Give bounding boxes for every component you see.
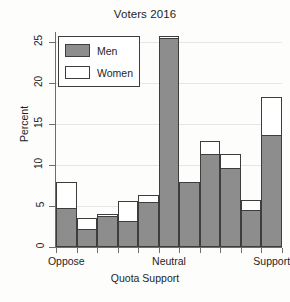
x-tick-mark <box>241 248 242 253</box>
x-tick-mark <box>220 248 221 253</box>
legend-swatch-men <box>65 44 90 57</box>
y-tick-label: 20 <box>0 76 44 87</box>
bar-women <box>261 97 282 247</box>
x-tick-mark <box>97 248 98 253</box>
y-tick-mark <box>49 83 55 84</box>
bar-men <box>118 221 139 247</box>
bar-men <box>56 208 77 247</box>
bar-men <box>159 38 180 247</box>
y-tick-label: 25 <box>0 35 44 46</box>
bar-men <box>261 135 282 247</box>
y-tick-mark <box>49 124 55 125</box>
x-axis-title: Quota Support <box>0 272 290 284</box>
legend-entry-men: Men <box>65 43 117 58</box>
x-tick-mark <box>118 248 119 253</box>
x-tick-mark <box>200 248 201 253</box>
y-tick-mark <box>49 206 55 207</box>
bar-women <box>220 154 241 247</box>
bar-women <box>159 36 180 247</box>
x-axis-line <box>55 247 282 248</box>
bar-men <box>77 229 98 247</box>
x-tick-mark <box>282 248 283 253</box>
y-tick-mark <box>49 165 55 166</box>
legend-label-women: Women <box>97 67 133 79</box>
x-tick-mark <box>56 248 57 253</box>
y-tick-mark <box>49 247 55 248</box>
chart-title: Voters 2016 <box>0 8 290 20</box>
y-tick-mark <box>49 42 55 43</box>
y-tick-label: 0 <box>0 240 44 251</box>
bar-women <box>77 218 98 247</box>
y-tick-label: 10 <box>0 158 44 169</box>
legend-swatch-women <box>65 66 90 79</box>
chart-figure: Voters 2016 Percent 0510152025 OpposeNeu… <box>0 0 290 302</box>
x-tick-label: Neutral <box>152 255 186 267</box>
bar-women <box>241 200 262 247</box>
x-tick-mark <box>77 248 78 253</box>
bar-men <box>241 210 262 247</box>
bar-men <box>97 216 118 247</box>
chart-legend: Men Women <box>58 36 140 87</box>
x-tick-mark <box>261 248 262 253</box>
y-tick-label: 15 <box>0 117 44 128</box>
bar-women <box>56 182 77 247</box>
legend-entry-women: Women <box>65 65 133 80</box>
x-tick-label: Support <box>253 255 290 267</box>
legend-label-men: Men <box>97 45 117 57</box>
bar-men <box>179 182 200 248</box>
bar-women <box>200 141 221 247</box>
bar-women <box>118 201 139 247</box>
bar-women <box>97 214 118 247</box>
x-tick-mark <box>159 248 160 253</box>
bar-women <box>138 195 159 247</box>
bar-women <box>179 182 200 248</box>
bar-men <box>200 154 221 247</box>
x-tick-mark <box>138 248 139 253</box>
bar-men <box>220 168 241 247</box>
y-tick-label: 5 <box>0 199 44 210</box>
x-tick-label: Oppose <box>48 255 85 267</box>
bar-men <box>138 202 159 247</box>
x-tick-mark <box>179 248 180 253</box>
